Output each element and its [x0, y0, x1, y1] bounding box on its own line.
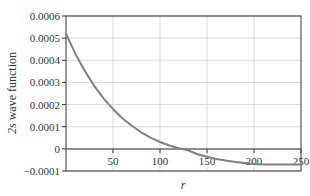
y-tick-label: 0.0004 — [30, 54, 61, 66]
y-tick-label: 0.0001 — [30, 121, 60, 133]
y-axis-ticks: 0.00060.00050.00040.00030.00020.00010−0.… — [24, 10, 66, 177]
y-tick-label: 0.0005 — [30, 32, 61, 44]
y-tick-label: 0.0002 — [30, 99, 60, 111]
plot-frame — [66, 16, 301, 171]
y-tick-label: 0.0006 — [30, 10, 61, 22]
x-tick-label: 100 — [152, 155, 169, 167]
y-axis-label: 2s wave function — [5, 52, 19, 134]
y-tick-label: 0 — [55, 143, 61, 155]
y-tick-label: 0.0003 — [30, 76, 61, 88]
wave-function-chart: 0.00060.00050.00040.00030.00020.00010−0.… — [0, 0, 310, 196]
x-axis-label: r — [181, 178, 186, 192]
x-tick-label: 50 — [108, 155, 120, 167]
y-tick-label: −0.0001 — [24, 165, 60, 177]
wave-function-curve — [66, 34, 301, 165]
grid-lines — [66, 16, 301, 171]
